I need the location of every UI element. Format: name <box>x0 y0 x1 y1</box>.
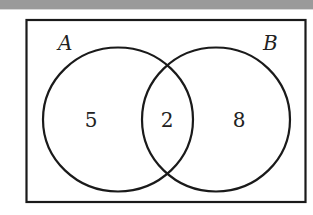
set-a-only-count: 5 <box>85 108 98 132</box>
venn-diagram: A B 5 2 8 <box>0 0 313 215</box>
intersection-count: 2 <box>161 108 174 132</box>
set-b-label: B <box>262 31 278 55</box>
set-a-label: A <box>56 31 72 55</box>
set-b-only-count: 8 <box>233 108 246 132</box>
